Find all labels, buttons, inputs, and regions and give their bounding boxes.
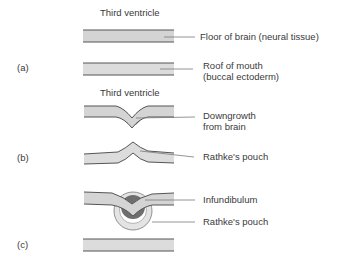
panel-c-graphics	[83, 192, 195, 251]
panel-label-b: (b)	[17, 152, 29, 163]
label-downgrowth: Downgrowth	[203, 110, 256, 121]
label-floor-of-brain: Floor of brain (neural tissue)	[200, 31, 319, 42]
panel-a-graphics	[83, 30, 195, 75]
label-rathkes-pouch: Rathke's pouch	[203, 216, 268, 227]
label-buccal-ectoderm: (buccal ectoderm)	[203, 71, 279, 82]
caption-third-ventricle: Third ventricle	[100, 7, 160, 18]
mouth-roof-band	[83, 239, 174, 251]
label-rathkes-pouch: Rathke's pouch	[203, 151, 268, 162]
label-from-brain: from brain	[203, 121, 246, 132]
panel-label-a: (a)	[17, 62, 29, 73]
panel-b-graphics	[84, 106, 195, 164]
panel-label-c: (c)	[17, 239, 28, 250]
brain-floor-band	[83, 30, 174, 42]
label-roof-of-mouth: Roof of mouth	[203, 60, 263, 71]
label-infundibulum: Infundibulum	[203, 194, 257, 205]
caption-third-ventricle: Third ventricle	[100, 87, 160, 98]
